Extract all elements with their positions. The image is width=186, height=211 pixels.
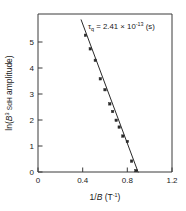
data-point [126,140,128,142]
data-point [122,135,124,137]
annotation-line: τq = 2.41 × 10-13 (s) [88,21,155,32]
chart-canvas: 0 1 2 3 4 5 0 0.4 0.8 1.2 τq = [0,0,186,211]
data-point [89,48,91,50]
y-axis-title: ln(B3 SdH amplitude) [4,55,14,131]
x-axis-tick-labels: 0 0.4 0.8 1.2 [36,176,178,185]
y-title-tail: amplitude) [4,55,14,97]
data-point [130,160,132,162]
x-tick-label-1: 0.4 [77,176,89,185]
data-point [94,59,96,61]
x-tick-label-0: 0 [36,176,41,185]
data-point [84,34,86,36]
data-point [104,89,106,91]
annotation-mantissa: 2.41 [103,22,118,31]
data-point [111,110,113,112]
data-point [115,119,117,121]
x-title-unit-close: ) [118,192,121,202]
y-tick-label-1: 1 [30,142,35,151]
y-tick-label-5: 5 [30,38,35,47]
y-title-prefix: ln( [4,121,14,131]
y-axis-title-group: ln(B3 SdH amplitude) [4,55,14,131]
y-tick-label-4: 4 [30,64,35,73]
y-tick-label-2: 2 [30,116,35,125]
data-point [135,169,137,171]
annotation-equals: = [94,22,103,31]
plot-frame [38,14,172,172]
x-axis-title-group: 1/B (T-1) [90,192,121,202]
x-axis-title: 1/B (T-1) [90,192,121,202]
data-point [109,103,111,105]
dingle-fit-line [81,19,138,172]
annotation-exponent: -13 [136,21,144,27]
x-tick-label-2: 0.8 [122,176,134,185]
tau-q-annotation: τq = 2.41 × 10-13 (s) [88,21,155,32]
y-axis-ticks [38,42,43,172]
fit-line-group [81,19,138,172]
x-tick-label-3: 1.2 [166,176,178,185]
y-tick-label-3: 3 [30,90,35,99]
dingle-plot-figure: 0 1 2 3 4 5 0 0.4 0.8 1.2 τq = [0,0,186,211]
annotation-times: × 10 [118,22,136,31]
x-axis-ticks [38,168,172,173]
data-point-group [84,34,137,172]
data-point [99,78,101,80]
data-point [118,126,120,128]
annotation-unit: (s) [144,22,156,31]
y-tick-label-0: 0 [30,168,35,177]
y-title-smallcaps: SdH [6,97,13,110]
axes-box [38,14,172,172]
y-axis-tick-labels: 0 1 2 3 4 5 [30,38,35,177]
x-title-unit-open: (T [102,192,112,202]
